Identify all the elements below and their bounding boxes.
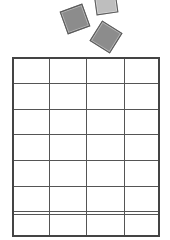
board-cell-r2-c2[interactable] <box>49 83 86 109</box>
board-cell-r4-c4[interactable] <box>124 134 160 160</box>
grid-row-line <box>14 186 158 187</box>
board-cell-r6-c2[interactable] <box>49 186 86 211</box>
grid-row-line <box>14 134 158 135</box>
grid-column-line <box>49 59 50 235</box>
grid-row-line <box>14 211 158 212</box>
board-cell-r3-c4[interactable] <box>124 109 160 134</box>
board-cell-r2-c4[interactable] <box>124 83 160 109</box>
board-cell-r6-c4[interactable] <box>124 186 160 211</box>
board-cell-r5-c1[interactable] <box>12 160 49 186</box>
board-cell-r2-c3[interactable] <box>86 83 124 109</box>
tile-3[interactable] <box>89 20 122 53</box>
tile-2[interactable] <box>94 0 119 15</box>
board-cell-r6-c3[interactable] <box>86 186 124 211</box>
board-cell-r1-c4[interactable] <box>124 57 160 83</box>
board-cell-r3-c1[interactable] <box>12 109 49 134</box>
grid-row-line <box>14 160 158 161</box>
board-cell-r1-c1[interactable] <box>12 57 49 83</box>
board-cell-r4-c3[interactable] <box>86 134 124 160</box>
tile-1[interactable] <box>60 4 91 35</box>
grid-row-line <box>14 83 158 84</box>
board-cell-r1-c2[interactable] <box>49 57 86 83</box>
board-cell-r2-c1[interactable] <box>12 83 49 109</box>
board-cell-r3-c2[interactable] <box>49 109 86 134</box>
board-cell-r1-c3[interactable] <box>86 57 124 83</box>
grid-row-line <box>14 109 158 110</box>
board-cell-r5-c3[interactable] <box>86 160 124 186</box>
grid-row-double-line <box>14 214 158 215</box>
board-cell-r5-c4[interactable] <box>124 160 160 186</box>
game-board-grid <box>12 57 160 237</box>
board-cell-r4-c2[interactable] <box>49 134 86 160</box>
board-cell-r4-c1[interactable] <box>12 134 49 160</box>
board-cell-r3-c3[interactable] <box>86 109 124 134</box>
board-cell-r6-c1[interactable] <box>12 186 49 211</box>
grid-column-line <box>86 59 87 235</box>
board-cell-r5-c2[interactable] <box>49 160 86 186</box>
grid-column-line <box>124 59 125 235</box>
